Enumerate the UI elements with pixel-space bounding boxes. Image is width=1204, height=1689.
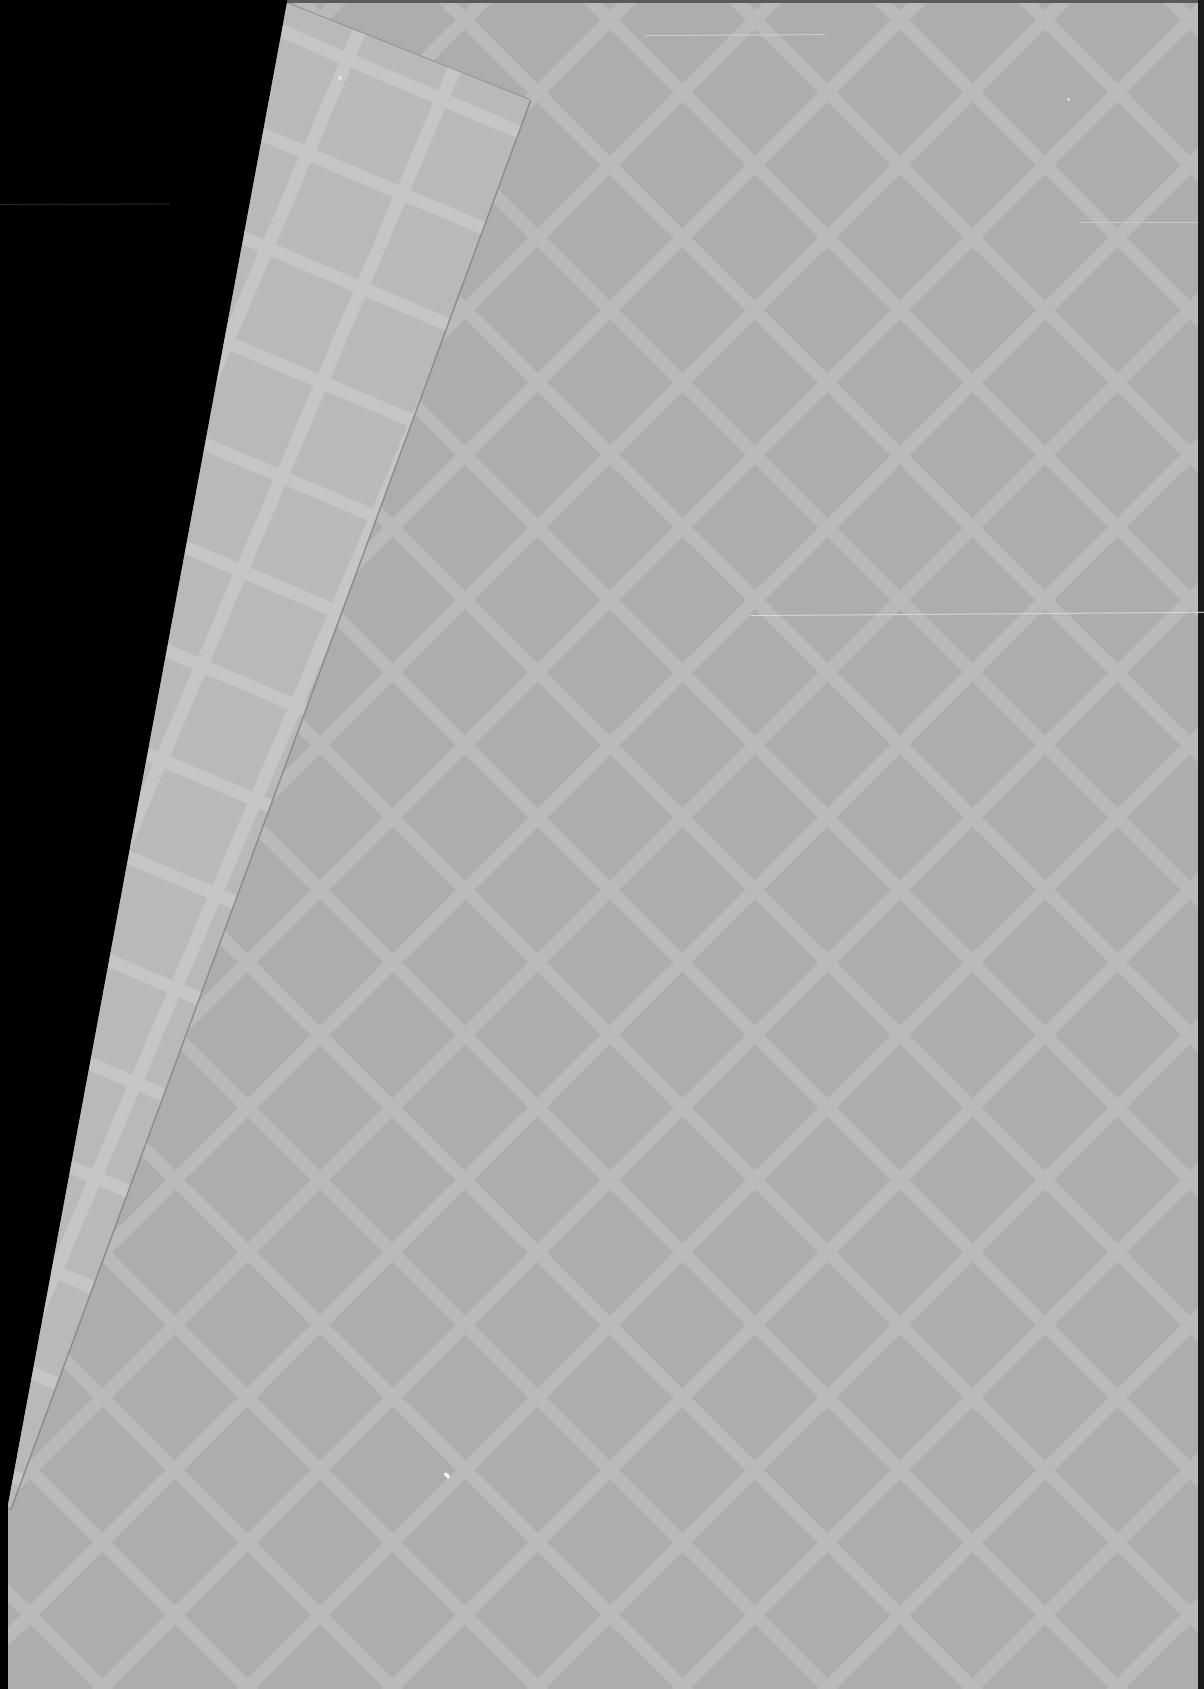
background-scan-line: [0, 203, 170, 205]
top-edge-shadow: [287, 0, 1204, 3]
dust-speck: [1067, 98, 1070, 101]
dust-speck: [338, 76, 342, 80]
scanned-paper-scene: [0, 0, 1204, 1689]
right-edge-strip: [1198, 0, 1204, 1689]
scratch-mark: [1080, 222, 1198, 223]
